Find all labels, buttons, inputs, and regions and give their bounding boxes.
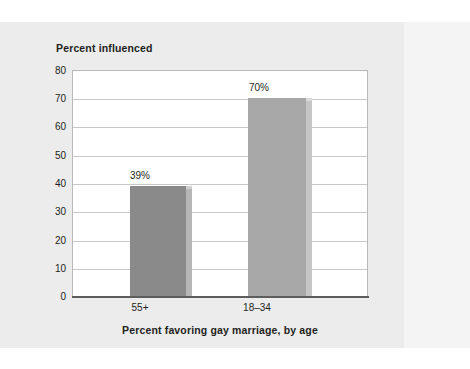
x-axis-title: Percent favoring gay marriage, by age <box>72 324 368 336</box>
y-tick-label-20: 20 <box>32 236 66 246</box>
x-tick-label-55plus: 55+ <box>99 302 181 313</box>
bar-55plus-top-edge <box>186 186 192 189</box>
bar-55plus-face <box>130 186 186 296</box>
gridline-40 <box>73 184 367 185</box>
bar-value-label-55plus: 39% <box>109 170 171 181</box>
gridline-70 <box>73 99 367 100</box>
bar-18-34-face <box>248 98 306 296</box>
bar-55plus-side <box>186 186 192 296</box>
y-tick-label-30: 30 <box>32 207 66 217</box>
gridline-20 <box>73 241 367 242</box>
bar-value-label-18-34: 70% <box>227 82 291 93</box>
bar-55plus <box>130 186 192 296</box>
y-tick-label-80: 80 <box>32 66 66 76</box>
y-tick-label-60: 60 <box>32 122 66 132</box>
bar-chart-figure: Percent influenced <box>0 22 470 348</box>
gridline-30 <box>73 212 367 213</box>
y-axis-title: Percent influenced <box>56 42 153 54</box>
gridline-10 <box>73 269 367 270</box>
bar-18-34 <box>248 98 312 296</box>
gridline-60 <box>73 127 367 128</box>
chart-screenshot: Percent influenced <box>0 0 470 369</box>
x-axis-baseline <box>72 296 369 298</box>
plot-area <box>72 70 368 297</box>
y-tick-label-10: 10 <box>32 264 66 274</box>
y-tick-label-50: 50 <box>32 151 66 161</box>
y-tick-label-70: 70 <box>32 94 66 104</box>
x-tick-label-18-34: 18–34 <box>216 302 298 313</box>
bar-18-34-side <box>306 98 312 296</box>
y-tick-label-40: 40 <box>32 179 66 189</box>
bar-18-34-top-edge <box>306 98 312 101</box>
gridline-50 <box>73 156 367 157</box>
y-tick-label-0: 0 <box>32 292 66 302</box>
